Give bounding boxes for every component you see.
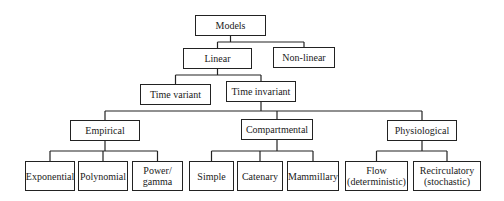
node-nonlinear: Non-linear [273,47,335,68]
node-compartmental: Compartmental [241,119,313,140]
node-exponential: Exponential [25,161,75,191]
node-flow: Flow (deterministic) [345,161,408,191]
node-catenary: Catenary [237,161,283,191]
node-power-gamma: Power/ gamma [132,161,183,191]
node-mammillary: Mammillary [287,161,339,191]
node-linear: Linear [183,48,252,69]
node-models: Models [195,15,266,36]
node-time-variant: Time variant [140,84,211,105]
node-simple: Simple [189,161,234,191]
node-polynomial: Polynomial [78,161,128,191]
node-physiological: Physiological [387,120,457,141]
node-time-invariant: Time invariant [226,81,296,102]
node-recirculatory: Recirculatory (stochastic) [413,161,481,191]
node-empirical: Empirical [70,120,140,141]
